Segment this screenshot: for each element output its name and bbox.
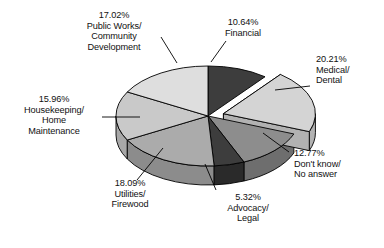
pie-geometry — [116, 66, 315, 185]
pie-chart-figure: 17.02% Public Works/ Community Developme… — [0, 0, 384, 248]
slice-label-public-works: 17.02% Public Works/ Community Developme… — [54, 10, 174, 52]
slice-label-medical-dental: 20.21% Medical/ Dental — [316, 54, 384, 86]
slice-label-advocacy-legal: 5.32% Advocacy/ Legal — [205, 192, 291, 224]
slice-label-dont-know: 12.77% Don't know/ No answer — [294, 148, 384, 180]
slice-label-financial: 10.64% Financial — [198, 17, 288, 38]
slice-label-utilities-firewood: 18.09% Utilities/ Firewood — [84, 178, 176, 210]
slice-label-housekeeping: 15.96% Housekeeping/ Home Maintenance — [2, 94, 106, 136]
leader-line-financial — [211, 41, 226, 62]
